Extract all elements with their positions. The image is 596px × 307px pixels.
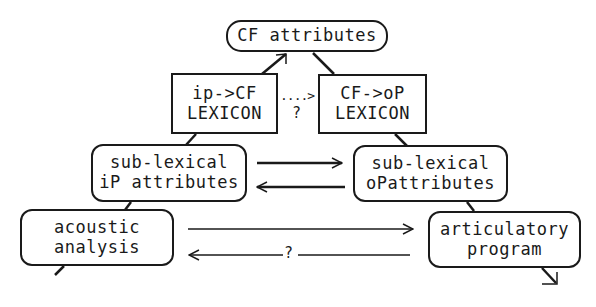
node-articulatory-program: articulatory program: [428, 211, 581, 268]
bottom-return-question: ?: [284, 244, 293, 262]
edge-artic-output: [542, 268, 556, 283]
edge-input-acoustic: [55, 266, 64, 275]
lexicon-link-dots: ....>: [280, 88, 314, 103]
ip-cf-lexicon-label: LEXICON: [187, 104, 262, 124]
node-ip-cf-lexicon: ip->CF LEXICON: [171, 73, 278, 134]
sublex-op-line2: oPattributes: [366, 174, 495, 194]
edge-cf-to-oplex: [313, 53, 334, 74]
edge-subop-to-artic: [467, 202, 474, 211]
sublex-ip-line2: iP attributes: [99, 173, 239, 193]
artic-line2: program: [467, 240, 542, 260]
node-sublexical-op: sub-lexical oPattributes: [353, 145, 508, 202]
acoustic-line1: acoustic: [54, 218, 140, 238]
acoustic-line2: analysis: [54, 238, 140, 258]
cf-op-lexicon-label: LEXICON: [335, 104, 410, 124]
ip-cf-label: ip->CF: [192, 84, 256, 104]
edge-iplex-to-cf: [262, 54, 286, 74]
sublex-ip-line1: sub-lexical: [110, 153, 228, 173]
sublex-op-line1: sub-lexical: [371, 154, 489, 174]
node-cf-attributes: CF attributes: [226, 20, 388, 52]
lexicon-link-question: ?: [292, 104, 301, 122]
cf-attributes-label: CF attributes: [237, 26, 377, 46]
node-cf-op-lexicon: CF->oP LEXICON: [318, 74, 427, 134]
cf-op-label: CF->oP: [340, 84, 404, 104]
node-sublexical-ip: sub-lexical iP attributes: [91, 144, 247, 202]
node-acoustic-analysis: acoustic analysis: [20, 209, 174, 266]
artic-line1: articulatory: [440, 220, 569, 240]
